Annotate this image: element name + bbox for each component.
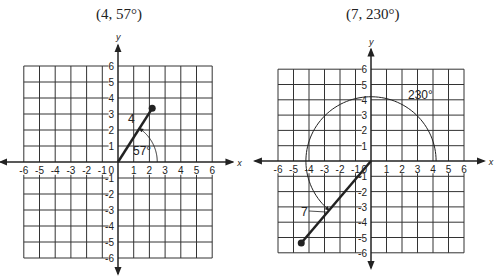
x-tick-label: -3 [66, 165, 75, 176]
point-marker [298, 240, 305, 247]
y-tick-label: 5 [361, 80, 367, 91]
x-tick-label: -2 [336, 164, 345, 175]
y-tick-label: -5 [358, 233, 367, 244]
x-tick-label: -5 [289, 164, 298, 175]
y-tick-label: -3 [358, 202, 367, 213]
x-tick-label: 1 [384, 164, 390, 175]
angle-label: 230° [408, 88, 433, 102]
y-tick-label: -3 [105, 205, 114, 216]
x-tick-label: 2 [399, 164, 405, 175]
y-tick-label: -4 [358, 217, 367, 228]
y-axis-label: y [368, 37, 374, 47]
x-tick-label: 6 [209, 165, 215, 176]
x-tick-label: 3 [162, 165, 168, 176]
y-tick-label: 6 [361, 64, 367, 75]
x-tick-label: -4 [51, 165, 60, 176]
x-tick-label: 5 [194, 165, 200, 176]
x-tick-label: 3 [415, 164, 421, 175]
radius-label: 7 [301, 205, 308, 219]
x-tick-label: 6 [461, 164, 467, 175]
radius-label-leader [309, 211, 326, 212]
x-tick-label: -5 [35, 165, 44, 176]
point-marker [149, 105, 156, 112]
x-tick-label: 2 [147, 165, 153, 176]
origin-label: 0 [108, 165, 114, 176]
y-tick-label: 6 [108, 61, 114, 72]
y-tick-label: -5 [105, 237, 114, 248]
y-tick-label: -2 [105, 189, 114, 200]
y-axis-label: y [115, 32, 121, 42]
x-tick-label: -3 [320, 164, 329, 175]
x-axis-label: x [236, 158, 242, 168]
x-tick-label: 5 [446, 164, 452, 175]
radius-label: 4 [128, 112, 135, 126]
polar-coordinate-diagrams: xy-6-5-4-3-2-1123456123456-1-2-3-4-5-604… [0, 0, 495, 278]
x-tick-label: 4 [178, 165, 184, 176]
y-tick-label: 4 [108, 93, 114, 104]
y-tick-label: -2 [358, 187, 367, 198]
y-tick-label: 2 [108, 125, 114, 136]
y-tick-label: 3 [108, 109, 114, 120]
y-tick-label: 5 [108, 77, 114, 88]
x-tick-label: -6 [274, 164, 283, 175]
y-tick-label: -6 [358, 248, 367, 259]
y-tick-label: 1 [108, 141, 114, 152]
y-tick-label: -6 [105, 253, 114, 264]
x-tick-label: -6 [19, 165, 28, 176]
y-tick-label: -4 [105, 221, 114, 232]
x-tick-label: 4 [430, 164, 436, 175]
x-tick-label: 1 [131, 165, 137, 176]
y-tick-label: 1 [361, 141, 367, 152]
x-tick-label: -2 [82, 165, 91, 176]
right-polar-plot: xy-6-5-4-3-2-1123456123456-1-2-3-4-5-607… [255, 37, 494, 268]
left-polar-plot: xy-6-5-4-3-2-1123456123456-1-2-3-4-5-604… [0, 32, 242, 274]
y-tick-label: 3 [361, 110, 367, 121]
y-tick-label: 2 [361, 125, 367, 136]
x-axis-label: x [488, 157, 494, 167]
angle-label: 57° [133, 144, 151, 158]
